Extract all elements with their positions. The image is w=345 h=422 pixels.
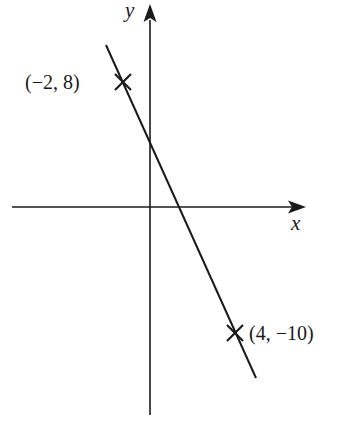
y-axis-arrow-icon <box>144 4 157 22</box>
cross-marker-icon <box>115 74 131 90</box>
x-axis-label: x <box>290 211 301 235</box>
point-label-1: (−2, 8) <box>25 71 80 94</box>
plotted-line <box>106 45 256 378</box>
coordinate-plane-diagram: x y (−2, 8) (4, −10) <box>0 0 345 422</box>
cross-marker-icon <box>227 325 243 341</box>
point-marker-1 <box>115 74 131 90</box>
x-axis <box>12 201 306 214</box>
point-marker-2 <box>227 325 243 341</box>
point-label-2: (4, −10) <box>249 322 314 345</box>
y-axis <box>144 4 157 415</box>
y-axis-label: y <box>123 0 135 22</box>
